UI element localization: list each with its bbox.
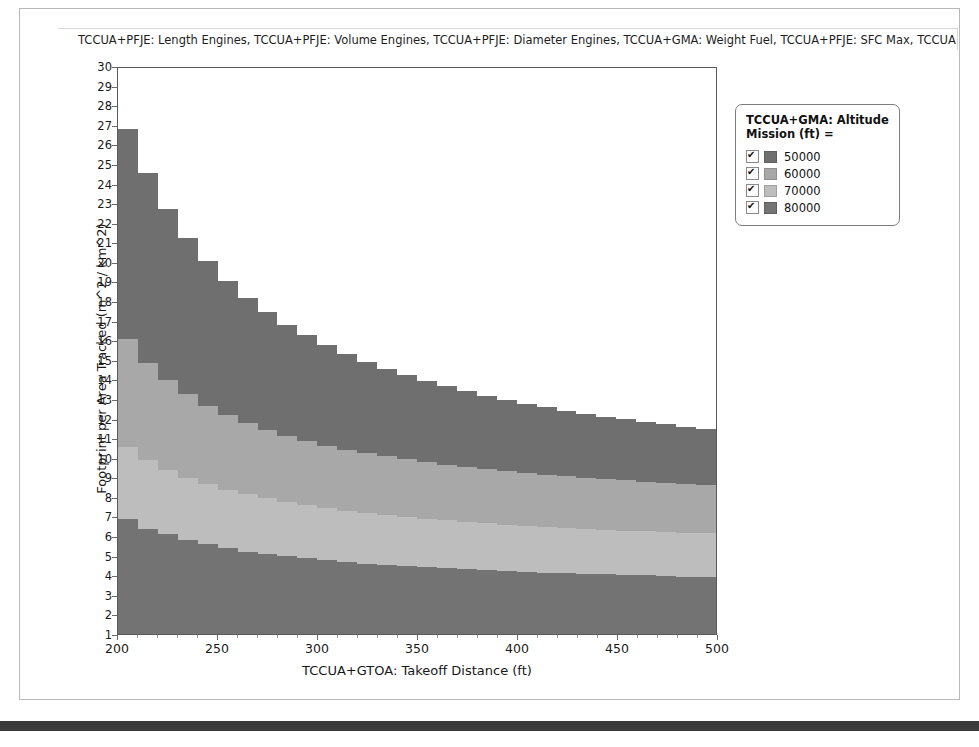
x-tick-minor-mark [157,635,158,638]
legend-item[interactable]: 50000 [746,148,889,165]
x-tick-label: 400 [487,641,547,656]
x-tick-minor-mark [497,635,498,638]
x-axis-title: TCCUA+GTOA: Takeoff Distance (ft) [117,663,717,678]
legend-item-label: 70000 [784,184,821,198]
y-tick-mark [112,459,117,460]
x-tick-minor-mark [377,635,378,638]
checkbox-checked-icon[interactable] [746,184,759,197]
x-tick-minor-mark [437,635,438,638]
legend-item[interactable]: 60000 [746,165,889,182]
legend-items: 50000600007000080000 [746,148,889,216]
y-tick-mark [112,67,117,68]
x-tick-minor-mark [577,635,578,638]
y-tick-mark [112,400,117,401]
x-tick-minor-mark [177,635,178,638]
checkbox-checked-icon[interactable] [746,201,759,214]
x-tick-minor-mark [297,635,298,638]
checkbox-checked-icon[interactable] [746,150,759,163]
y-axis-title: Footprint per Area Tracked (m^2 / km^2) [94,144,109,574]
y-tick-mark [112,243,117,244]
x-tick-mark [217,635,218,640]
y-tick-mark [112,341,117,342]
x-tick-mark [517,635,518,640]
x-tick-label: 300 [287,641,347,656]
y-tick-mark [112,204,117,205]
y-tick-mark [112,517,117,518]
legend-item-label: 60000 [784,167,821,181]
x-tick-minor-mark [137,635,138,638]
y-tick-mark [112,282,117,283]
y-tick-mark [112,576,117,577]
x-tick-minor-mark [537,635,538,638]
y-tick-mark [112,322,117,323]
legend-item[interactable]: 70000 [746,182,889,199]
legend-color-swatch [764,151,777,163]
y-tick-mark [112,380,117,381]
x-tick-minor-mark [597,635,598,638]
x-tick-label: 250 [187,641,247,656]
legend-item-label: 80000 [784,201,821,215]
x-tick-minor-mark [657,635,658,638]
y-tick-mark [112,635,117,636]
y-tick-mark [112,263,117,264]
x-tick-minor-mark [197,635,198,638]
y-tick-mark [112,420,117,421]
y-tick-mark [112,106,117,107]
x-tick-minor-mark [337,635,338,638]
x-tick-mark [317,635,318,640]
x-tick-minor-mark [477,635,478,638]
y-tick-mark [112,361,117,362]
legend-item[interactable]: 80000 [746,199,889,216]
x-tick-minor-mark [557,635,558,638]
legend-color-swatch [764,168,777,180]
legend-color-swatch [764,185,777,197]
y-tick-mark [112,478,117,479]
legend-color-swatch [764,202,777,214]
bottom-bar [0,721,979,731]
y-tick-mark [112,165,117,166]
x-tick-label: 200 [87,641,147,656]
x-tick-minor-mark [457,635,458,638]
y-tick-mark [112,185,117,186]
y-tick-mark [112,615,117,616]
y-tick-mark [112,439,117,440]
legend-title: TCCUA+GMA: Altitude Mission (ft) = [746,113,889,141]
x-tick-label: 350 [387,641,447,656]
x-tick-minor-mark [677,635,678,638]
x-tick-mark [617,635,618,640]
x-tick-minor-mark [237,635,238,638]
legend-box[interactable]: TCCUA+GMA: Altitude Mission (ft) = 50000… [735,104,900,226]
y-tick-mark [112,302,117,303]
x-tick-minor-mark [257,635,258,638]
x-tick-label: 500 [687,641,747,656]
x-tick-mark [117,635,118,640]
y-tick-mark [112,126,117,127]
x-tick-minor-mark [277,635,278,638]
y-tick-mark [112,87,117,88]
x-tick-label: 450 [587,641,647,656]
y-tick-mark [112,498,117,499]
y-tick-mark [112,537,117,538]
x-tick-minor-mark [357,635,358,638]
y-tick-mark [112,224,117,225]
x-tick-minor-mark [637,635,638,638]
legend-item-label: 50000 [784,150,821,164]
y-tick-mark [112,557,117,558]
document-page: TCCUA+PFJE: Length Engines, TCCUA+PFJE: … [0,0,979,747]
x-tick-minor-mark [397,635,398,638]
x-tick-mark [417,635,418,640]
y-tick-mark [112,596,117,597]
y-tick-mark [112,145,117,146]
checkbox-checked-icon[interactable] [746,167,759,180]
x-tick-minor-mark [697,635,698,638]
x-tick-mark [717,635,718,640]
